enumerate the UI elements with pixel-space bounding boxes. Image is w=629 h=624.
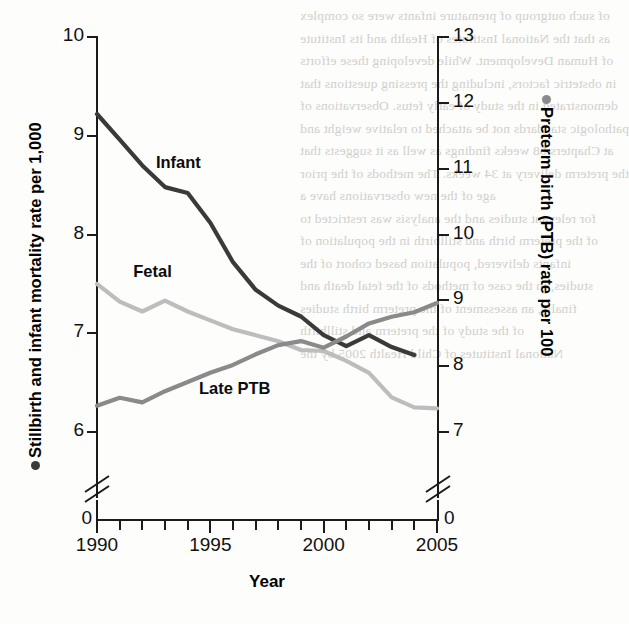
series-label-infant: Infant bbox=[156, 153, 201, 172]
series-label-fetal: Fetal bbox=[133, 262, 172, 281]
right-axis-title-text: Preterm birth (PTB) rate per 100 bbox=[538, 107, 556, 356]
left-axis-title: Stillbirth and infant mortality rate per… bbox=[26, 122, 45, 470]
right-axis-bullet-marker bbox=[542, 95, 551, 104]
right-axis-title: Preterm birth (PTB) rate per 100 bbox=[537, 95, 556, 356]
left-axis-bullet-marker bbox=[31, 461, 40, 470]
series-line-infant bbox=[97, 114, 414, 355]
left-axis-title-text: Stillbirth and infant mortality rate per… bbox=[26, 122, 44, 458]
series-label-late-ptb: Late PTB bbox=[199, 379, 271, 398]
x-axis-title: Year bbox=[207, 572, 327, 592]
